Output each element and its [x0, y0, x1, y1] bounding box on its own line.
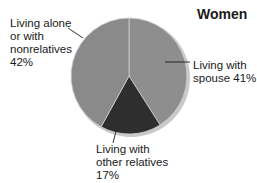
chart-title: Women	[197, 6, 247, 22]
label-living-alone: Living alone or with nonrelatives 42%	[10, 17, 72, 69]
label-living-with-spouse: Living with spouse 41%	[193, 59, 256, 85]
label-living-with-other-relatives: Living with other relatives 17%	[96, 143, 168, 182]
